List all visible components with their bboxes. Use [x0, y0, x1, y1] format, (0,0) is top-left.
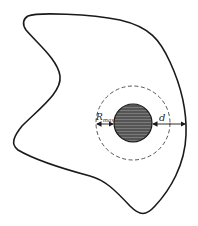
rmax-label: Rmax: [95, 112, 115, 123]
d-label: d: [159, 112, 165, 123]
filled-disk: [114, 104, 152, 142]
domain-diagram: Rmax d: [0, 0, 198, 226]
